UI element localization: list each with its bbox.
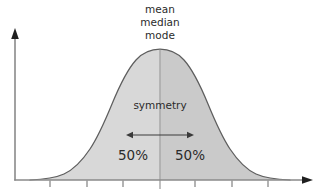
y-axis-arrowhead-icon bbox=[11, 28, 19, 39]
label-symmetry: symmetry bbox=[133, 99, 186, 111]
y-axis bbox=[11, 28, 19, 181]
normal-distribution-figure: mean median mode symmetry 50% 50% bbox=[0, 0, 320, 191]
figure-canvas: mean median mode symmetry 50% 50% bbox=[0, 0, 320, 191]
x-axis-ticks bbox=[50, 181, 268, 188]
x-axis-arrowhead-icon bbox=[302, 176, 313, 184]
label-right-percent: 50% bbox=[175, 147, 205, 163]
label-left-percent: 50% bbox=[118, 147, 148, 163]
label-median: median bbox=[140, 16, 179, 28]
label-mode: mode bbox=[145, 29, 175, 41]
label-mean: mean bbox=[145, 3, 175, 15]
